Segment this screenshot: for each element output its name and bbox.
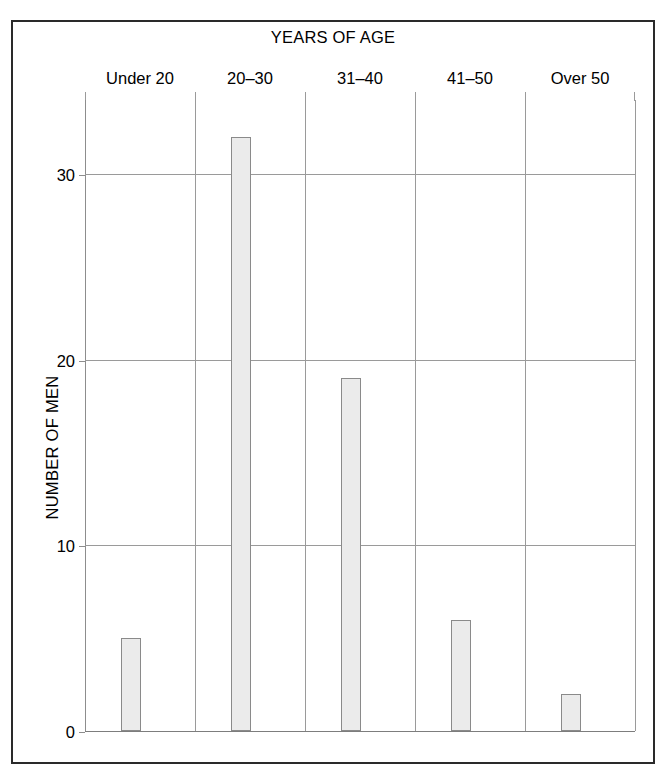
x-axis-label-41-50: 41–50 <box>415 66 525 90</box>
y-tick-label-20: 20 <box>57 353 75 370</box>
bar-over-50 <box>561 694 581 731</box>
x-gridline-2 <box>305 100 306 731</box>
x-axis-label-under-20: Under 20 <box>85 66 195 90</box>
plot-area: 0102030 <box>85 100 635 731</box>
y-tick-label-10: 10 <box>57 538 75 555</box>
x-axis-label-31-40: 31–40 <box>305 66 415 90</box>
y-tick-mark-20 <box>79 361 85 362</box>
x-gridline-5 <box>635 100 636 731</box>
y-gridline-0: 0 <box>85 731 635 732</box>
x-axis-label-20-30: 20–30 <box>195 66 305 90</box>
y-tick-mark-10 <box>79 546 85 547</box>
bar-under-20 <box>121 638 141 731</box>
y-gridline-30: 30 <box>85 174 635 175</box>
y-tick-label-30: 30 <box>57 167 75 184</box>
bar-41–50 <box>451 620 471 731</box>
x-axis-label-over-50: Over 50 <box>525 66 635 90</box>
bar-20–30 <box>231 137 251 731</box>
x-axis-category-labels: Under 20 20–30 31–40 41–50 Over 50 <box>85 66 635 90</box>
y-gridline-20: 20 <box>85 360 635 361</box>
chart-figure: YEARS OF AGE Under 20 20–30 31–40 41–50 … <box>0 0 669 780</box>
x-gridline-4 <box>525 100 526 731</box>
y-tick-label-0: 0 <box>66 724 75 741</box>
chart-title: YEARS OF AGE <box>11 28 655 47</box>
x-gridline-1 <box>195 100 196 731</box>
x-gridline-3 <box>415 100 416 731</box>
y-axis-title: NUMBER OF MEN <box>43 338 62 558</box>
bar-31–40 <box>341 378 361 731</box>
y-tick-mark-0 <box>79 732 85 733</box>
y-tick-mark-30 <box>79 175 85 176</box>
